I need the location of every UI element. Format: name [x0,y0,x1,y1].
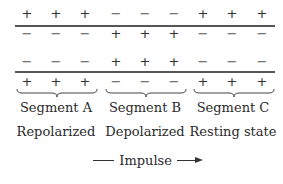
brace-segment-a [16,88,98,98]
plus-charge: + [46,75,66,89]
minus-charge: − [222,55,242,69]
membrane-line-bottom [15,71,275,73]
plus-charge: + [106,55,126,69]
arrow-right-icon [195,157,203,163]
impulse-label: Impulse [119,153,172,168]
brace-segment-b [105,88,187,98]
minus-charge: − [17,55,37,69]
plus-charge: + [193,7,213,21]
segment-b-state: Depolarized [95,124,195,140]
plus-charge: + [135,55,155,69]
impulse-line-right [177,160,196,161]
minus-charge: − [106,7,126,21]
plus-charge: + [252,7,272,21]
minus-charge: − [164,75,184,89]
plus-charge: + [164,55,184,69]
minus-charge: − [222,27,242,41]
segment-c-name: Segment C [183,100,283,116]
impulse-line-left [93,160,114,161]
segment-c-state: Resting state [183,124,283,140]
segment-a-name: Segment A [6,100,106,116]
minus-charge: − [75,55,95,69]
minus-charge: − [193,27,213,41]
plus-charge: + [75,7,95,21]
plus-charge: + [135,27,155,41]
plus-charge: + [193,75,213,89]
plus-charge: + [252,75,272,89]
brace-segment-c [193,88,275,98]
minus-charge: − [106,75,126,89]
plus-charge: + [222,7,242,21]
impulse-direction: Impulse [93,152,203,168]
minus-charge: − [135,75,155,89]
minus-charge: − [46,27,66,41]
minus-charge: − [46,55,66,69]
plus-charge: + [164,27,184,41]
minus-charge: − [164,7,184,21]
minus-charge: − [17,27,37,41]
plus-charge: + [17,75,37,89]
segment-a-state: Repolarized [6,124,106,140]
minus-charge: − [75,27,95,41]
segment-b-name: Segment B [95,100,195,116]
plus-charge: + [222,75,242,89]
minus-charge: − [193,55,213,69]
plus-charge: + [75,75,95,89]
minus-charge: − [135,7,155,21]
plus-charge: + [106,27,126,41]
plus-charge: + [17,7,37,21]
minus-charge: − [252,55,272,69]
minus-charge: − [252,27,272,41]
plus-charge: + [46,7,66,21]
